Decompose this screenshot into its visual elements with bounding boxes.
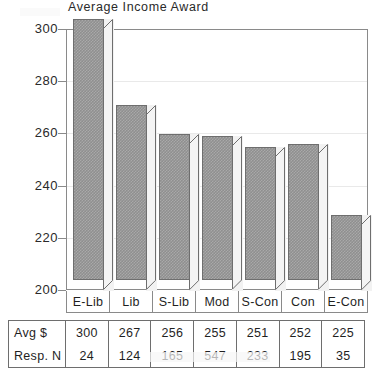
table-cell-avg: 225 [322, 321, 364, 344]
table-column-e-lib: 30024 [66, 321, 109, 367]
table-cell-avg: 256 [151, 321, 193, 344]
table-cell-avg: 251 [237, 321, 279, 344]
table-cell-resp: 195 [280, 344, 322, 367]
bar-front-face [331, 215, 362, 280]
table-column-e-con: 22535 [322, 321, 364, 367]
bar-side-face [189, 134, 200, 291]
y-axis-tick-label: 300 [18, 21, 58, 36]
bar-mod [202, 136, 241, 289]
chart-title: Average Income Award [68, 0, 209, 14]
category-label-con: Con [282, 291, 325, 312]
table-cell-avg: 267 [109, 321, 151, 344]
y-axis-tick-mark [58, 81, 66, 82]
scan-artifact [20, 8, 60, 16]
table-cell-resp: 124 [109, 344, 151, 367]
bar-front-face [116, 105, 147, 280]
table-row-label: Resp. N [9, 344, 65, 367]
category-label-e-lib: E-Lib [67, 291, 110, 312]
bar-front-face [159, 134, 190, 280]
bar-s-con [245, 147, 284, 289]
table-value-columns: 3002426712425616525554725123325219522535 [66, 321, 364, 367]
table-cell-resp: 24 [66, 344, 108, 367]
table-column-s-con: 251233 [237, 321, 280, 367]
plot-area [66, 29, 368, 290]
y-axis-tick-mark [58, 238, 66, 239]
table-cell-resp: 35 [322, 344, 364, 367]
y-axis-tick-label: 280 [18, 73, 58, 88]
bar-front-face [288, 144, 319, 280]
category-label-s-lib: S-Lib [153, 291, 196, 312]
bar-front-face [202, 136, 233, 280]
bar-side-face [103, 19, 114, 291]
bar-e-lib [73, 19, 112, 289]
y-axis-tick-mark [58, 133, 66, 134]
y-axis-tick-label: 200 [18, 282, 58, 297]
bar-s-lib [159, 134, 198, 289]
bar-front-face [73, 19, 104, 280]
table-row-label-column: Avg $Resp. N [9, 321, 66, 367]
y-axis-tick-label: 260 [18, 125, 58, 140]
bar-lib [116, 105, 155, 289]
category-label-mod: Mod [196, 291, 239, 312]
y-axis-tick-mark [58, 186, 66, 187]
y-axis-tick-mark [58, 29, 66, 30]
y-axis-tick-label: 220 [18, 230, 58, 245]
y-axis-tick-label: 240 [18, 178, 58, 193]
table-cell-resp: 165 [151, 344, 193, 367]
table-cell-avg: 255 [194, 321, 236, 344]
bar-front-face [245, 147, 276, 280]
category-label-lib: Lib [110, 291, 153, 312]
table-column-s-lib: 256165 [151, 321, 194, 367]
table-column-mod: 255547 [194, 321, 237, 367]
category-label-strip: E-LibLibS-LibModS-ConConE-Con [66, 291, 368, 313]
bar-side-face [232, 136, 243, 291]
bar-side-face [275, 147, 286, 291]
table-cell-avg: 300 [66, 321, 108, 344]
bar-side-face [146, 105, 157, 291]
table-row-label: Avg $ [9, 321, 65, 344]
bar-side-face [361, 215, 372, 291]
table-cell-avg: 252 [280, 321, 322, 344]
bar-con [288, 144, 327, 289]
category-label-e-con: E-Con [325, 291, 367, 312]
table-column-lib: 267124 [109, 321, 152, 367]
table-cell-resp: 233 [237, 344, 279, 367]
chart-figure: Average Income Award 300280260240220200 … [0, 0, 376, 376]
data-table: Avg $Resp. N 300242671242561652555472512… [8, 320, 365, 368]
bar-side-face [318, 144, 329, 291]
bar-e-con [331, 215, 370, 289]
category-label-s-con: S-Con [239, 291, 282, 312]
y-axis-tick-mark [58, 290, 66, 291]
table-cell-resp: 547 [194, 344, 236, 367]
table-column-con: 252195 [280, 321, 323, 367]
